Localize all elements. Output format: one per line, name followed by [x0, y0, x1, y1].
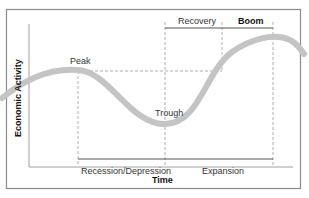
peak-label: Peak — [70, 56, 91, 66]
y-axis-label: Economic Activity — [13, 59, 23, 137]
business-cycle-diagram: Peak Trough Recovery Boom Recession/Depr… — [0, 0, 309, 198]
trough-label: Trough — [155, 108, 183, 118]
recovery-label: Recovery — [178, 16, 217, 26]
cycle-curve — [2, 37, 304, 124]
boom-label: Boom — [238, 16, 264, 26]
x-axis-label: Time — [152, 175, 173, 185]
expansion-label: Expansion — [202, 166, 244, 176]
outer-frame — [7, 10, 301, 189]
